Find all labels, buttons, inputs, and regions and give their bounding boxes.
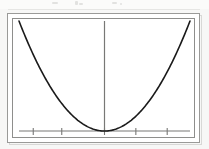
- top-edge-artifact-strip: [0, 0, 209, 9]
- screenshot-canvas: [0, 0, 209, 149]
- text-residue-smudge-icon: [75, 1, 78, 5]
- parabola-chart-svg: [12, 18, 195, 138]
- text-residue-smudge-icon: [52, 2, 58, 4]
- text-residue-smudge-icon: [112, 2, 117, 4]
- plot-area: [12, 18, 195, 138]
- text-residue-smudge-icon: [79, 3, 83, 5]
- text-residue-smudge-icon: [120, 3, 122, 5]
- top-divider-rule: [8, 9, 200, 10]
